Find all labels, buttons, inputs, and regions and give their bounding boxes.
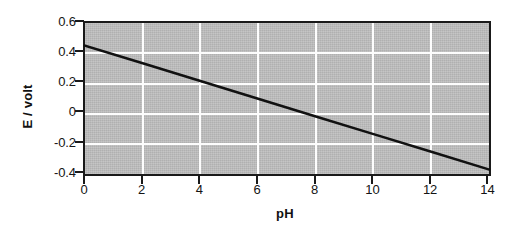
x-tick-label: 4 — [179, 182, 219, 197]
x-tick-label: 0 — [64, 182, 104, 197]
y-tick-label: -0.2 — [30, 135, 76, 150]
x-tick-label: 10 — [352, 182, 392, 197]
series-polyline — [85, 46, 489, 170]
x-tick-label-group: 0 2 4 6 8 10 12 14 — [0, 182, 514, 204]
y-tick-label: 0.6 — [30, 14, 76, 29]
y-tick-label: 0.2 — [30, 74, 76, 89]
x-tick-label: 6 — [237, 182, 277, 197]
x-tick-label: 8 — [295, 182, 335, 197]
x-tick-label: 2 — [122, 182, 162, 197]
data-line-series — [85, 23, 489, 174]
chart-figure: E / volt 0.6 0.4 0.2 0 -0.2 -0.4 — [0, 0, 514, 239]
plot-area — [83, 21, 491, 176]
y-tick-label: 0 — [30, 104, 76, 119]
x-tick-label: 12 — [410, 182, 450, 197]
y-tick-label: 0.4 — [30, 44, 76, 59]
y-tick-label: -0.4 — [30, 165, 76, 180]
x-tick-label: 14 — [468, 182, 508, 197]
x-axis-title: pH — [83, 206, 487, 221]
